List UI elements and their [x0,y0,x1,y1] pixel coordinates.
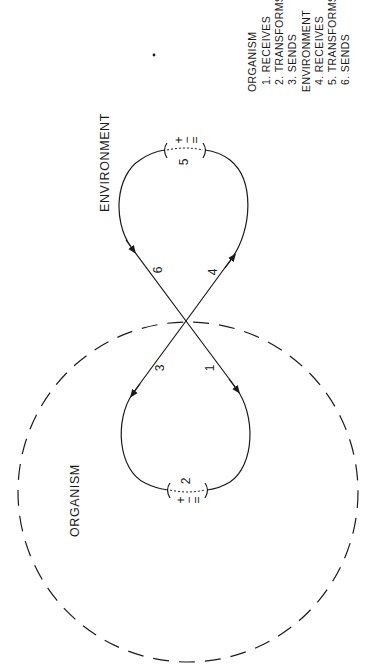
legend-item-5: 5. TRANSFORMS [327,0,338,85]
legend-environment-header: ENVIRONMENT [301,10,312,92]
legend-item-4: 4. RECEIVES [314,16,325,85]
step-4-label: 4 [207,269,219,276]
stray-dot [153,54,156,57]
bracket-5-left [165,143,168,158]
bracket-5-right [203,143,206,158]
organism-loop-left [121,321,186,490]
step-5-label: 5 [178,159,190,166]
transform-symbol-2: + − = [177,494,200,506]
legend-item-3: 3. SENDS [287,34,298,85]
step-6-label: 6 [152,267,164,274]
legend-organism-header: ORGANISM [247,32,258,92]
step-1-label: 1 [204,365,216,372]
arrow-1-icon [229,379,238,391]
organism-environment-diagram [0,0,369,671]
equals-symbol: = [189,136,201,143]
environment-loop-right [186,150,248,321]
transform-symbol-5: + − = [175,134,198,146]
arrow-6-icon [126,240,134,251]
bracket-2-left [168,483,171,498]
legend-item-2: 2. TRANSFORMS [274,0,285,85]
legend-item-1: 1. RECEIVES [261,16,272,85]
bracket-2-right [205,483,208,498]
environment-loop [119,150,186,321]
gap-5-dotted [167,148,203,150]
step-3-label: 3 [154,365,166,372]
organism-loop-right [186,321,250,490]
equals-symbol: = [191,496,203,503]
arrow-3-icon [132,384,140,395]
environment-label: ENVIRONMENT [99,113,112,212]
step-2-label: 2 [180,478,192,485]
gap-2-dotted [170,490,205,492]
legend-item-6: 6. SENDS [340,34,351,85]
arrow-4-icon [225,256,234,268]
organism-label: ORGANISM [69,464,82,537]
